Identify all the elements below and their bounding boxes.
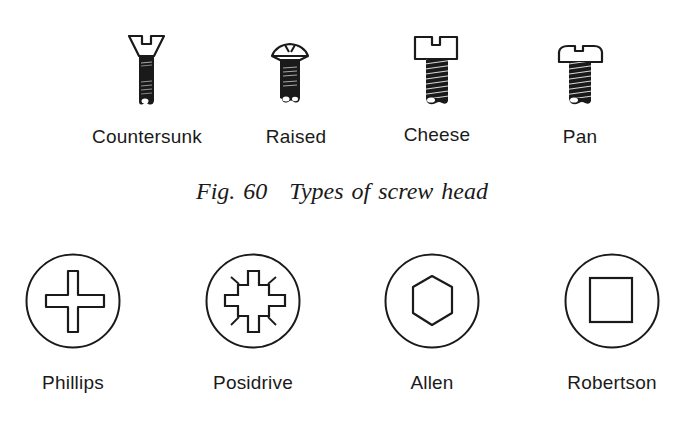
- label-allen: Allen: [410, 372, 453, 394]
- robertson-square-drive-icon: [566, 255, 659, 348]
- countersunk-screw-icon: [129, 36, 164, 105]
- label-posidrive: Posidrive: [213, 372, 293, 394]
- label-phillips: Phillips: [42, 372, 104, 394]
- phillips-drive-icon: [27, 255, 120, 348]
- label-robertson: Robertson: [567, 372, 656, 394]
- figure-caption: Fig. 60Types of screw head: [196, 178, 488, 205]
- allen-hex-drive-icon: [386, 255, 479, 348]
- pan-screw-icon: [559, 46, 602, 104]
- figure-number: Fig. 60: [196, 178, 267, 204]
- label-countersunk: Countersunk: [92, 126, 202, 148]
- figure-artwork: [0, 0, 684, 423]
- label-raised: Raised: [266, 126, 326, 148]
- raised-screw-icon: [272, 44, 308, 103]
- label-cheese: Cheese: [404, 124, 471, 146]
- posidrive-drive-icon: [207, 255, 300, 348]
- screw-types-figure: Countersunk Raised Cheese Pan Fig. 60Typ…: [0, 0, 684, 423]
- cheese-screw-icon: [415, 37, 457, 104]
- label-pan: Pan: [563, 126, 597, 148]
- figure-title: Types of screw head: [289, 178, 488, 204]
